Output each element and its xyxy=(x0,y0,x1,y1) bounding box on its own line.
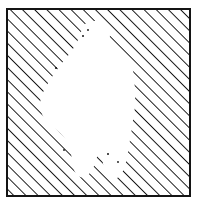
hatched-figure-illustration xyxy=(0,0,198,210)
hatch-fleck xyxy=(63,149,65,151)
illustration-canvas: Hatched square with white human silhouet… xyxy=(0,0,198,210)
hatch-fleck xyxy=(55,67,57,69)
